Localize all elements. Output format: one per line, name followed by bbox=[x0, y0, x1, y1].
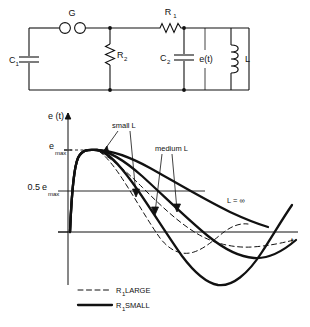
svg-text:R: R bbox=[165, 7, 172, 17]
small-l-leader-2 bbox=[130, 131, 136, 195]
svg-text:e: e bbox=[42, 182, 47, 192]
svg-text:1: 1 bbox=[16, 61, 20, 67]
annotation-l-infinite: L = ∞ bbox=[227, 196, 245, 205]
svg-text:SMALL: SMALL bbox=[125, 301, 150, 310]
junction-node-c2-top bbox=[182, 26, 186, 30]
y-axis-arrowhead bbox=[65, 113, 71, 119]
svg-text:small L: small L bbox=[112, 121, 136, 130]
resistor-r1-label: R 1 bbox=[165, 7, 178, 19]
resistor-r2-symbol bbox=[106, 44, 115, 65]
junction-node-r2-top bbox=[108, 26, 112, 30]
waveform-plot: e (t) t e max 0.5 e max bbox=[27, 111, 298, 285]
legend: R 1 LARGE R 1 SMALL bbox=[78, 286, 150, 312]
y-axis-label: e (t) bbox=[48, 111, 64, 121]
resistor-r2-label: R 2 bbox=[117, 50, 128, 62]
curve-small-l bbox=[70, 150, 292, 285]
inductor-l-symbol bbox=[231, 45, 238, 73]
svg-text:C: C bbox=[160, 53, 167, 63]
svg-text:max: max bbox=[48, 191, 59, 197]
circuit-diagram: G R 1 C 1 R 2 bbox=[9, 7, 250, 92]
capacitor-c1-label: C 1 bbox=[9, 55, 20, 67]
medium-l-leader-1 bbox=[155, 154, 162, 213]
svg-text:LARGE: LARGE bbox=[125, 286, 150, 295]
curve-medium-l bbox=[70, 150, 296, 258]
svg-text:e: e bbox=[49, 141, 54, 151]
svg-text:0.5: 0.5 bbox=[27, 182, 40, 192]
svg-text:1: 1 bbox=[173, 13, 177, 19]
svg-text:2: 2 bbox=[167, 59, 171, 65]
resistor-r1-symbol bbox=[157, 24, 184, 33]
figure-impulse-generator: G R 1 C 1 R 2 bbox=[0, 0, 310, 327]
legend-entry-r1-large: R 1 LARGE bbox=[78, 286, 150, 297]
legend-entry-r1-small: R 1 SMALL bbox=[78, 301, 150, 312]
svg-text:max: max bbox=[55, 150, 66, 156]
svg-text:R: R bbox=[117, 50, 124, 60]
output-voltage-label: e(t) bbox=[199, 54, 213, 64]
spark-gap-electrode-right bbox=[75, 23, 86, 34]
spark-gap-label: G bbox=[68, 8, 75, 18]
y-tick-emax: e max bbox=[49, 141, 96, 156]
svg-text:2: 2 bbox=[124, 56, 128, 62]
capacitor-c2-label: C 2 bbox=[160, 53, 171, 65]
svg-text:medium L: medium L bbox=[155, 144, 188, 153]
spark-gap-electrode-left bbox=[60, 23, 71, 34]
